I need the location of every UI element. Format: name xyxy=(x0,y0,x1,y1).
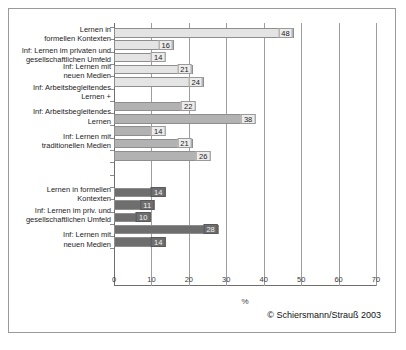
bar-row: 14 xyxy=(114,125,376,137)
category-label: Lernen informellen Kontexten xyxy=(11,25,111,44)
x-tick-label-30: 30 xyxy=(222,275,230,284)
bar-value-label: 14 xyxy=(151,187,165,197)
bar xyxy=(114,28,294,38)
bar xyxy=(114,114,256,124)
x-tick-label-10: 10 xyxy=(147,275,155,284)
category-label-line: traditionellen Medien xyxy=(11,141,111,151)
bar-value-label: 26 xyxy=(196,151,210,161)
category-label-line: Inf: Lernen mit xyxy=(11,132,111,142)
category-label-line: Kontexten xyxy=(11,194,111,204)
bar-value-label: 10 xyxy=(136,212,150,222)
bar-row: 14 xyxy=(114,236,376,248)
bar-row: 14 xyxy=(114,52,376,64)
bar-value-label: 14 xyxy=(151,237,165,247)
bar-value-label: 11 xyxy=(140,200,154,210)
x-tick-label-60: 60 xyxy=(334,275,342,284)
bar-row: 26 xyxy=(114,150,376,162)
bar-row: 21 xyxy=(114,64,376,76)
x-axis-title: % xyxy=(114,297,376,306)
x-tick-label-0: 0 xyxy=(112,275,116,284)
bar-row: 24 xyxy=(114,76,376,88)
bar-row: 22 xyxy=(114,101,376,113)
bar-row: 16 xyxy=(114,39,376,51)
copyright-note: © Schiersmann/Strauß 2003 xyxy=(267,310,381,320)
bar-row: 38 xyxy=(114,113,376,125)
chart-figure: Lernen informellen KontextenInf: Lernen … xyxy=(8,8,396,333)
category-tick xyxy=(110,175,114,176)
category-label-line: Inf: Lernen mit xyxy=(11,62,111,72)
category-label-line: neuen Medien xyxy=(11,71,111,81)
plot-area: 481614212422381421261411102814 xyxy=(114,23,376,286)
bar-row-empty xyxy=(114,162,376,174)
category-label-line: gesellschaftlichen Umfeld xyxy=(11,215,111,225)
category-label-line: formellen Kontexten xyxy=(11,34,111,44)
x-tick-label-40: 40 xyxy=(260,275,268,284)
category-label-line: Inf: Lernen im priv. und xyxy=(11,206,111,216)
x-tick-label-70: 70 xyxy=(372,275,380,284)
category-label-line: Inf: Lernen mit xyxy=(11,230,111,240)
bar-value-label: 21 xyxy=(177,138,191,148)
bar-row: 21 xyxy=(114,138,376,150)
bar-value-label: 22 xyxy=(181,101,195,111)
category-label-line: neuen Medien xyxy=(11,240,111,250)
x-tick-label-50: 50 xyxy=(297,275,305,284)
bar-value-label: 48 xyxy=(278,28,292,38)
bar-row: 28 xyxy=(114,224,376,236)
bar-row-empty xyxy=(114,248,376,260)
bar-row: 10 xyxy=(114,212,376,224)
category-label-line: Lernen xyxy=(11,117,111,127)
bar-value-label: 14 xyxy=(151,52,165,62)
category-label: Inf: ArbeitsbegleitendesLernen + xyxy=(11,83,111,102)
bar-row-empty xyxy=(114,175,376,187)
category-tick xyxy=(110,248,114,249)
bar-row: 11 xyxy=(114,199,376,211)
gridline-70 xyxy=(376,23,377,286)
category-label: Inf: Lernen mitneuen Medien xyxy=(11,62,111,81)
bar-value-label: 24 xyxy=(188,77,202,87)
category-tick xyxy=(110,89,114,90)
bar-value-label: 16 xyxy=(159,40,173,50)
bar-value-label: 14 xyxy=(151,126,165,136)
category-label-line: Inf: Lernen im privaten und xyxy=(11,46,111,56)
category-label-line: Inf: Arbeitsbegleitendes xyxy=(11,83,111,93)
category-label: Inf: Lernen im priv. undgesellschaftlich… xyxy=(11,206,111,225)
bar-row: 48 xyxy=(114,27,376,39)
category-label: Inf: Lernen mittraditionellen Medien xyxy=(11,132,111,151)
category-tick xyxy=(110,162,114,163)
x-axis-line xyxy=(114,285,376,286)
bar-value-label: 28 xyxy=(203,224,217,234)
bar-value-label: 38 xyxy=(241,114,255,124)
bar-value-label: 21 xyxy=(177,64,191,74)
category-label-line: Inf: Arbeitsbegleitendes xyxy=(11,107,111,117)
category-label-line: Lernen in xyxy=(11,25,111,35)
category-label: Inf: ArbeitsbegleitendesLernen xyxy=(11,107,111,126)
category-label: Inf: Lernen mitneuen Medien xyxy=(11,230,111,249)
bar-row: 14 xyxy=(114,187,376,199)
bar-row-empty xyxy=(114,89,376,101)
category-label-line: Lernen in formellen xyxy=(11,185,111,195)
x-tick-label-20: 20 xyxy=(185,275,193,284)
category-label: Lernen in formellenKontexten xyxy=(11,185,111,204)
category-label-line: Lernen + xyxy=(11,92,111,102)
